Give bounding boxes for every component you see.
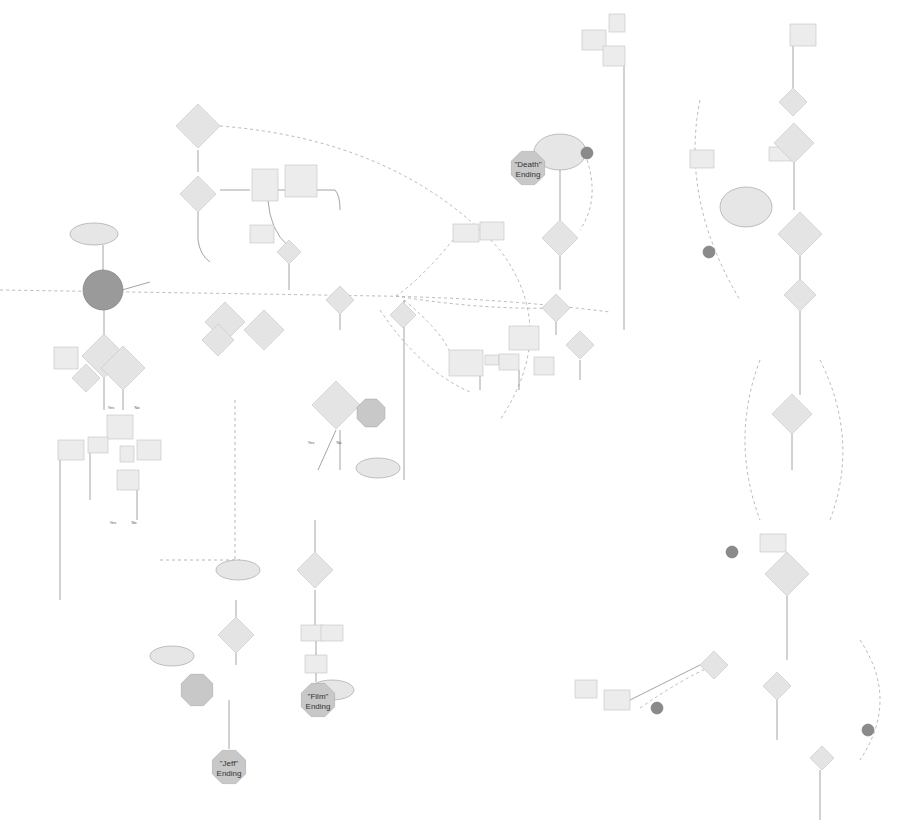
decision-diamond [779, 88, 807, 116]
solid-connector [122, 282, 150, 290]
decision-diamond [176, 104, 220, 148]
decision-diamond [312, 381, 360, 429]
dashed-connector [860, 640, 880, 760]
node-label: Ending [217, 769, 242, 778]
action-box [582, 30, 606, 50]
note-ellipses [70, 134, 772, 700]
action-box [305, 655, 327, 673]
decision-diamond [297, 552, 333, 588]
action-box [58, 440, 84, 460]
action-box [604, 690, 630, 710]
decision-diamonds [72, 88, 834, 770]
node-label: "Film" [308, 692, 329, 701]
decision-diamond [763, 672, 791, 700]
solid-connector [630, 665, 700, 700]
decision-diamond [277, 240, 301, 264]
decision-diamond [218, 617, 254, 653]
dashed-connector [580, 160, 592, 230]
action-box [54, 347, 78, 369]
action-box [690, 150, 714, 168]
flowchart-svg [0, 0, 909, 839]
action-box [250, 225, 274, 243]
terminal-circle [83, 270, 123, 310]
dashed-connector [396, 296, 556, 308]
dashed-connector [396, 240, 453, 296]
terminal-circle [651, 702, 663, 714]
action-box [301, 625, 323, 641]
note-ellipse [216, 560, 260, 580]
node-label: No [134, 405, 139, 410]
node-label: No [131, 520, 136, 525]
action-box [88, 437, 108, 453]
node-label: Yes [108, 405, 115, 410]
solid-connector [198, 212, 210, 262]
solid-connector [317, 190, 340, 210]
dashed-connector [820, 360, 843, 520]
node-label: Ending [306, 702, 331, 711]
action-box [499, 354, 519, 370]
terminal-circle [862, 724, 874, 736]
node-label: No [336, 440, 341, 445]
decision-diamond [542, 220, 578, 256]
action-box [485, 355, 499, 365]
node-label: Yes [110, 520, 117, 525]
ending-octagon-mid [357, 399, 385, 427]
action-box [509, 326, 539, 350]
action-box [449, 350, 483, 376]
note-ellipse [150, 646, 194, 666]
note-ellipse [720, 187, 772, 227]
decision-diamond [810, 746, 834, 770]
action-box [609, 14, 625, 32]
action-box [117, 470, 139, 490]
node-label: "Death" [514, 160, 541, 169]
decision-diamond [765, 552, 809, 596]
action-box [120, 446, 134, 462]
action-box [790, 24, 816, 46]
action-box [760, 534, 786, 552]
action-box [453, 224, 479, 242]
decision-diamond [700, 651, 728, 679]
ending-octagon-forever [181, 674, 212, 705]
action-box [137, 440, 161, 460]
decision-diamond [778, 212, 822, 256]
note-ellipse [70, 223, 118, 245]
action-box [575, 680, 597, 698]
decision-diamond [390, 302, 416, 328]
action-box [321, 625, 343, 641]
action-box [480, 222, 504, 240]
action-box [252, 169, 278, 201]
node-label: "Jeff" [220, 759, 238, 768]
decision-diamond [784, 279, 816, 311]
terminal-circle [581, 147, 593, 159]
decision-diamond [542, 294, 570, 322]
action-box [285, 165, 317, 197]
node-label: Yes [308, 440, 315, 445]
decision-diamond [180, 176, 216, 212]
decision-diamond [326, 286, 354, 314]
dashed-connector [404, 300, 449, 350]
note-ellipse [356, 458, 400, 478]
action-box [603, 46, 625, 66]
terminal-circle [726, 546, 738, 558]
decision-diamond [566, 331, 594, 359]
decision-diamond [244, 310, 284, 350]
action-box [107, 415, 133, 439]
dashed-connector [745, 360, 760, 520]
action-boxes [54, 14, 816, 710]
node-label: Ending [516, 170, 541, 179]
flowchart-canvas: "Death"Ending"Jeff"Ending"Film"EndingYes… [0, 0, 909, 839]
terminal-circle [703, 246, 715, 258]
action-box [534, 357, 554, 375]
decision-diamond [772, 394, 812, 434]
solid-connector [318, 430, 336, 470]
dashed-connector [640, 665, 714, 708]
